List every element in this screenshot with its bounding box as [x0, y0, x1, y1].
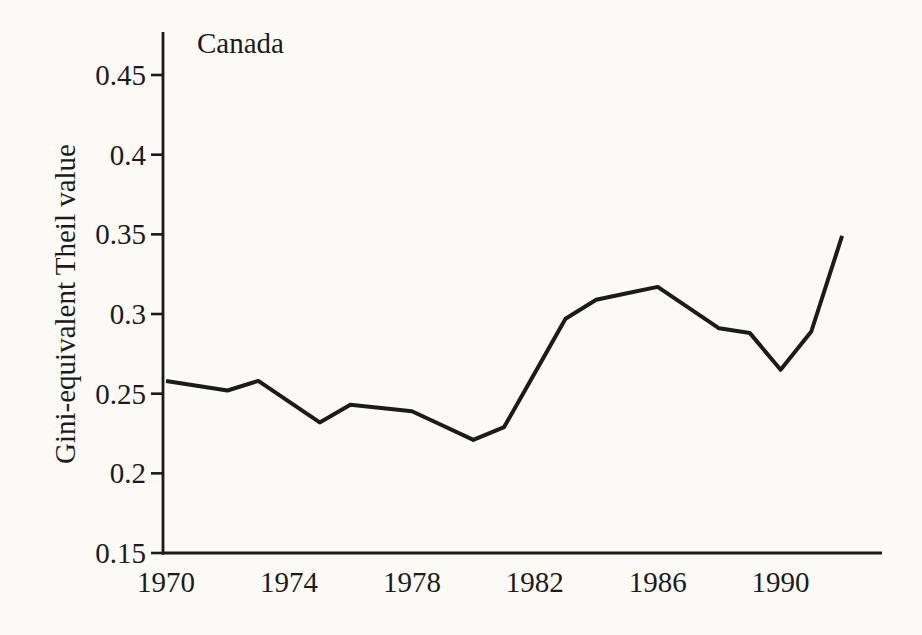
y-tick-label: 0.2 — [110, 457, 146, 489]
line-chart: 0.450.40.350.30.250.20.15 19701974197819… — [0, 0, 922, 635]
y-tick-label: 0.4 — [110, 139, 147, 171]
y-tick-label: 0.3 — [110, 298, 146, 330]
chart-figure: 0.450.40.350.30.250.20.15 19701974197819… — [0, 0, 922, 635]
x-tick-label: 1990 — [752, 566, 810, 598]
x-tick-label: 1982 — [506, 566, 564, 598]
x-tick-label: 1970 — [137, 566, 195, 598]
y-tick-label: 0.15 — [95, 537, 146, 569]
y-tick-label: 0.35 — [95, 218, 146, 250]
data-line-canada — [166, 236, 842, 440]
y-tick-label: 0.45 — [95, 59, 146, 91]
y-axis-tick-labels: 0.450.40.350.30.250.20.15 — [95, 59, 146, 569]
y-tick-label: 0.25 — [95, 378, 146, 410]
x-tick-label: 1974 — [260, 566, 319, 598]
y-axis-title: Gini-equivalent Theil value — [49, 144, 81, 464]
x-tick-label: 1986 — [629, 566, 687, 598]
axes — [162, 32, 882, 554]
x-axis-tick-labels: 197019741978198219861990 — [137, 566, 810, 598]
chart-title: Canada — [197, 27, 284, 59]
x-tick-label: 1978 — [383, 566, 441, 598]
